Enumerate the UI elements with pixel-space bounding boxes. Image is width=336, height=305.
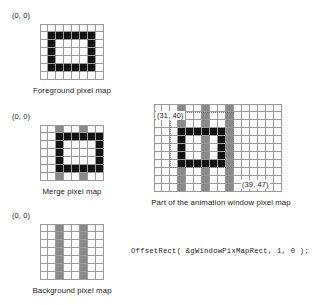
animation-window-pixel-cell (250, 112, 258, 120)
animation-window-pixel-cell (170, 136, 178, 144)
background-pixel-cell (88, 272, 96, 280)
foreground-pixel-cell (56, 32, 64, 40)
animation-window-pixel-cell (202, 144, 210, 152)
foreground-pixel-cell (88, 64, 96, 72)
animation-window-pixel-cell (226, 136, 234, 144)
animation-window-pixel-cell (162, 144, 170, 152)
background-pixel-cell (96, 240, 104, 248)
merge-pixel-cell (96, 173, 104, 181)
animation-window-topleft-label: (31, 40) (156, 111, 185, 120)
animation-window-pixel-cell (258, 168, 266, 176)
merge-pixel-cell (56, 157, 64, 165)
animation-window-pixel-cell (258, 160, 266, 168)
merge-pixel-cell (56, 165, 64, 173)
animation-window-pixel-cell (274, 176, 282, 184)
animation-window-pixel-cell (226, 104, 234, 112)
merge-pixel-cell (88, 125, 96, 133)
animation-window-pixel-cell (162, 152, 170, 160)
merge-pixel-cell (88, 149, 96, 157)
animation-window-pixel-cell (186, 160, 194, 168)
foreground-pixel-cell (80, 24, 88, 32)
animation-window-pixel-cell (266, 128, 274, 136)
animation-window-pixel-cell (202, 112, 210, 120)
animation-window-pixel-cell (250, 152, 258, 160)
merge-pixel-cell (72, 141, 80, 149)
animation-window-pixel-cell (274, 168, 282, 176)
animation-window-pixel-cell (226, 128, 234, 136)
merge-pixel-cell (64, 149, 72, 157)
animation-window-pixel-cell (266, 120, 274, 128)
foreground-pixel-cell (64, 40, 72, 48)
animation-window-pixel-cell (162, 160, 170, 168)
foreground-pixel-cell (80, 32, 88, 40)
animation-window-pixel-cell (210, 112, 218, 120)
animation-window-pixel-cell (178, 120, 186, 128)
animation-window-pixel-cell (218, 136, 226, 144)
merge-pixel-cell (96, 141, 104, 149)
merge-pixel-cell (96, 133, 104, 141)
background-caption: Background pixel map (20, 286, 124, 296)
background-pixel-cell (96, 272, 104, 280)
foreground-pixel-cell (88, 72, 96, 80)
animation-window-pixel-cell (274, 120, 282, 128)
background-pixel-cell (64, 240, 72, 248)
animation-window-pixel-cell (226, 176, 234, 184)
foreground-pixel-cell (56, 24, 64, 32)
merge-pixel-grid (40, 125, 104, 181)
background-pixel-cell (40, 232, 48, 240)
animation-window-pixel-cell (226, 112, 234, 120)
merge-pixel-cell (40, 149, 48, 157)
background-pixel-cell (72, 232, 80, 240)
background-pixel-cell (56, 272, 64, 280)
animation-window-pixel-cell (170, 128, 178, 136)
animation-window-pixel-cell (234, 136, 242, 144)
animation-window-pixel-cell (154, 168, 162, 176)
animation-window-pixel-cell (266, 112, 274, 120)
foreground-pixel-cell (40, 48, 48, 56)
animation-window-pixel-cell (154, 160, 162, 168)
animation-window-pixel-cell (250, 136, 258, 144)
foreground-pixel-cell (96, 72, 104, 80)
merge-pixel-cell (96, 125, 104, 133)
animation-window-pixel-cell (186, 176, 194, 184)
merge-pixel-cell (56, 141, 64, 149)
foreground-pixel-cell (96, 32, 104, 40)
foreground-pixel-cell (64, 64, 72, 72)
foreground-pixel-cell (96, 56, 104, 64)
foreground-pixel-cell (72, 40, 80, 48)
merge-pixel-cell (64, 133, 72, 141)
animation-window-pixel-cell (234, 120, 242, 128)
foreground-pixel-grid (40, 24, 104, 80)
background-pixel-cell (56, 248, 64, 256)
merge-pixel-cell (48, 165, 56, 173)
animation-window-bottomright-label: (39, 47) (241, 180, 270, 189)
animation-window-pixel-cell (266, 144, 274, 152)
animation-window-pixel-cell (194, 184, 202, 192)
background-pixel-cell (64, 272, 72, 280)
background-pixel-cell (40, 224, 48, 232)
animation-window-pixel-cell (218, 184, 226, 192)
foreground-pixel-cell (80, 64, 88, 72)
animation-window-pixel-cell (210, 136, 218, 144)
foreground-pixel-cell (48, 56, 56, 64)
animation-window-pixel-cell (194, 160, 202, 168)
animation-window-pixel-cell (250, 168, 258, 176)
animation-window-pixel-cell (250, 128, 258, 136)
animation-window-pixel-cell (210, 152, 218, 160)
background-pixel-cell (80, 272, 88, 280)
animation-window-pixel-cell (202, 184, 210, 192)
background-pixel-cell (48, 256, 56, 264)
animation-window-pixel-cell (258, 128, 266, 136)
merge-pixel-cell (80, 157, 88, 165)
animation-window-pixel-cell (242, 104, 250, 112)
animation-window-pixel-cell (266, 104, 274, 112)
animation-window-pixel-cell (170, 152, 178, 160)
animation-window-pixel-cell (234, 112, 242, 120)
animation-window-pixel-cell (170, 168, 178, 176)
background-pixel-cell (56, 224, 64, 232)
animation-window-pixel-cell (186, 120, 194, 128)
merge-pixel-cell (56, 125, 64, 133)
animation-window-pixel-cell (202, 104, 210, 112)
animation-window-pixel-cell (162, 120, 170, 128)
foreground-pixel-cell (56, 48, 64, 56)
